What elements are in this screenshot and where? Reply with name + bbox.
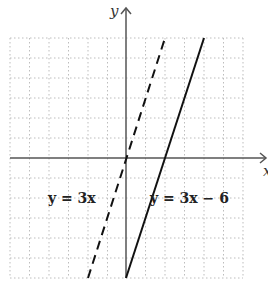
y-axis-label: y [110,2,118,20]
coordinate-plane [0,0,268,294]
x-axis [10,153,266,163]
label-y-equals-3x-minus-6: y = 3x − 6 [150,190,229,206]
x-axis-label: x [263,162,268,180]
label-y-equals-3x: y = 3x [48,190,96,206]
